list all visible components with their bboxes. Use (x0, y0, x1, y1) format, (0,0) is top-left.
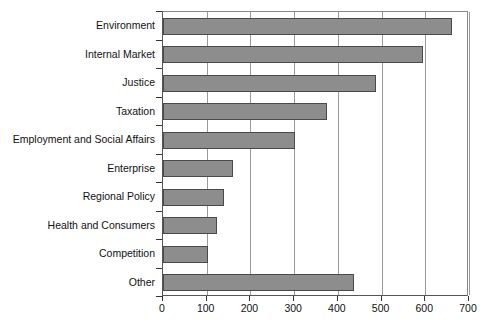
y-axis-tick (156, 154, 162, 155)
x-axis-tick (206, 296, 207, 301)
bar (163, 189, 224, 206)
bar (163, 160, 233, 177)
y-axis-tick (156, 97, 162, 98)
category-label: Enterprise (107, 154, 155, 183)
y-axis-tick (156, 239, 162, 240)
gridline-600 (425, 12, 426, 295)
x-axis-tick (249, 296, 250, 301)
category-axis-labels: EnvironmentInternal MarketJusticeTaxatio… (0, 11, 160, 296)
category-label: Environment (96, 11, 155, 40)
x-axis-tick-label: 300 (273, 302, 313, 314)
x-axis-tick-label: 600 (404, 302, 444, 314)
y-axis-tick (156, 182, 162, 183)
y-axis-tick (156, 68, 162, 69)
plot-area (162, 11, 468, 296)
bar-chart: EnvironmentInternal MarketJusticeTaxatio… (0, 0, 488, 327)
category-label: Regional Policy (83, 182, 155, 211)
y-axis-tick (156, 211, 162, 212)
category-label: Employment and Social Affairs (13, 125, 155, 154)
y-axis-tick (156, 125, 162, 126)
category-label: Justice (122, 68, 155, 97)
category-label: Other (129, 268, 155, 297)
bar (163, 246, 208, 263)
bar (163, 46, 423, 63)
x-axis-tick (337, 296, 338, 301)
bar (163, 217, 217, 234)
category-label: Taxation (116, 97, 155, 126)
category-label: Competition (99, 239, 155, 268)
bar (163, 103, 327, 120)
x-axis-tick-label: 100 (186, 302, 226, 314)
y-axis-tick (156, 11, 162, 12)
bar (163, 274, 354, 291)
x-axis-tick-label: 400 (317, 302, 357, 314)
x-axis-tick (468, 296, 469, 301)
x-axis-tick-label: 500 (361, 302, 401, 314)
y-axis-tick (156, 268, 162, 269)
category-label: Health and Consumers (48, 211, 155, 240)
x-axis-tick-label: 0 (142, 302, 182, 314)
bar (163, 132, 295, 149)
bar (163, 18, 452, 35)
x-axis-tick-label: 200 (229, 302, 269, 314)
x-axis-tick (381, 296, 382, 301)
category-label: Internal Market (85, 40, 155, 69)
x-axis-tick (162, 296, 163, 301)
x-axis-tick (424, 296, 425, 301)
gridline-700 (469, 12, 470, 295)
x-axis-tick (293, 296, 294, 301)
y-axis-tick (156, 40, 162, 41)
x-axis-tick-label: 700 (448, 302, 488, 314)
bar (163, 75, 376, 92)
